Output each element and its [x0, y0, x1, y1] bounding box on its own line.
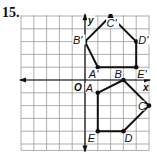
- vertex-point: [96, 129, 101, 134]
- vertex-label: B': [73, 34, 83, 46]
- y-axis-label: y: [87, 15, 94, 26]
- vertex-label: D': [138, 34, 149, 46]
- vertex-label: A': [88, 68, 99, 80]
- coordinate-plane: yxOA'B'C'D'E'ABCDE: [0, 0, 157, 154]
- origin-label: O: [74, 82, 82, 93]
- vertex-label: A: [85, 82, 93, 94]
- vertex-point: [96, 91, 101, 96]
- vertex-label: B: [114, 68, 121, 80]
- vertex-label: E': [137, 68, 147, 80]
- vertex-label: C': [107, 17, 118, 29]
- vertex-point: [147, 103, 152, 108]
- vertex-label: D: [124, 132, 132, 144]
- vertex-label: C: [138, 100, 146, 112]
- vertex-point: [121, 78, 126, 83]
- x-axis-label: x: [142, 82, 149, 93]
- vertex-label: E: [88, 132, 96, 144]
